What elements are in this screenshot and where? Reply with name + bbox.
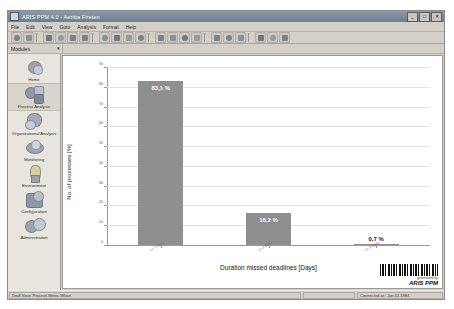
sort-desc-icon-glyph bbox=[226, 35, 232, 41]
menu-item-goto[interactable]: Goto bbox=[59, 24, 70, 30]
sidebar-item-organizational-analysis[interactable]: Organizational Analysis bbox=[8, 111, 60, 137]
menu-item-help[interactable]: Help bbox=[126, 24, 136, 30]
modules-bar: Modules ▾ bbox=[8, 44, 444, 54]
paste-icon[interactable] bbox=[111, 32, 122, 43]
aris-ppm-logo: ARIS PPM bbox=[378, 280, 438, 286]
sort-desc-icon[interactable] bbox=[223, 32, 234, 43]
new-icon-glyph bbox=[14, 35, 20, 41]
gridline bbox=[107, 67, 430, 68]
sort-asc-icon[interactable] bbox=[211, 32, 222, 43]
open-icon-glyph bbox=[26, 35, 32, 41]
toolbar-separator bbox=[36, 33, 41, 42]
monitoring-icon-part-1 bbox=[31, 140, 41, 150]
table-icon[interactable] bbox=[191, 32, 202, 43]
modules-label: Modules bbox=[8, 46, 54, 52]
sidebar-item-configuration[interactable]: Configuration bbox=[8, 189, 60, 215]
menu-item-analysis[interactable]: Analysis bbox=[77, 24, 96, 30]
toolbar-separator bbox=[92, 33, 97, 42]
settings-icon[interactable] bbox=[279, 32, 290, 43]
y-tick bbox=[104, 166, 107, 167]
administration-icon bbox=[24, 216, 44, 234]
sidebar-item-home[interactable]: Home bbox=[8, 57, 60, 83]
chevron-down-icon[interactable]: ▾ bbox=[54, 46, 62, 51]
sidebar-item-administration[interactable]: Administration bbox=[8, 215, 60, 241]
redo-icon[interactable] bbox=[135, 32, 146, 43]
toolbar-separator bbox=[248, 33, 253, 42]
y-tick-label: 40 bbox=[99, 161, 103, 165]
environment-icon bbox=[24, 164, 44, 182]
maximize-button[interactable]: □ bbox=[419, 12, 430, 22]
filter-icon[interactable] bbox=[167, 32, 178, 43]
modules-bar-filler bbox=[62, 44, 444, 53]
menu-item-format[interactable]: Format bbox=[103, 24, 119, 30]
settings-icon-glyph bbox=[282, 35, 288, 41]
grid-icon[interactable] bbox=[255, 32, 266, 43]
process-analysis-icon-part-2 bbox=[34, 94, 44, 104]
sidebar-item-label: Process Analysis bbox=[18, 104, 50, 109]
close-button[interactable]: ✕ bbox=[431, 12, 442, 22]
application-window: ARIS PPM 4.0 - Aeritta Fireten _ □ ✕ Fil… bbox=[7, 10, 445, 300]
brand-block: generated by ARIS PPM bbox=[378, 264, 438, 287]
zoom-icon[interactable] bbox=[235, 32, 246, 43]
environment-icon-part-1 bbox=[31, 175, 40, 183]
chart-icon[interactable] bbox=[179, 32, 190, 43]
minimize-button[interactable]: _ bbox=[407, 12, 418, 22]
menu-item-view[interactable]: View bbox=[42, 24, 53, 30]
body-row: HomeProcess AnalysisOrganizational Analy… bbox=[8, 54, 444, 290]
y-tick bbox=[104, 146, 107, 147]
filter-icon-glyph bbox=[170, 35, 176, 41]
refresh-icon[interactable] bbox=[155, 32, 166, 43]
status-right: Connected at : Jan 01 1984 bbox=[357, 292, 443, 299]
bar[interactable] bbox=[138, 81, 183, 245]
status-left: Draft View: Process Metric Whart bbox=[9, 292, 301, 299]
paste-icon-glyph bbox=[114, 35, 120, 41]
undo-icon[interactable] bbox=[123, 32, 134, 43]
redo-icon-glyph bbox=[138, 35, 144, 41]
sidebar-item-process-analysis[interactable]: Process Analysis bbox=[8, 83, 60, 111]
status-middle bbox=[303, 292, 355, 299]
export-icon[interactable] bbox=[267, 32, 278, 43]
save-icon[interactable] bbox=[43, 32, 54, 43]
bar-value-label: 83,1 % bbox=[151, 85, 170, 91]
new-icon[interactable] bbox=[11, 32, 22, 43]
zoom-icon-glyph bbox=[238, 35, 244, 41]
sidebar-item-label: Home bbox=[28, 77, 39, 82]
toolbar-separator bbox=[148, 33, 153, 42]
bar-value-label: 16,2 % bbox=[259, 217, 278, 223]
y-tick-label: 90 bbox=[99, 62, 103, 66]
y-tick-label: 50 bbox=[99, 141, 103, 145]
configuration-icon-part-1 bbox=[33, 191, 44, 202]
grid-icon-glyph bbox=[258, 35, 264, 41]
y-tick bbox=[104, 225, 107, 226]
open-icon[interactable] bbox=[23, 32, 34, 43]
x-tick-label: <= 3 days bbox=[364, 241, 380, 253]
y-tick bbox=[104, 245, 107, 246]
barcode-icon bbox=[380, 264, 438, 276]
app-icon bbox=[10, 12, 19, 21]
y-axis-line bbox=[107, 68, 108, 246]
y-tick bbox=[104, 67, 107, 68]
home-icon-part-1 bbox=[33, 65, 43, 75]
y-tick-label: 70 bbox=[99, 102, 103, 106]
status-bar: Draft View: Process Metric Whart Connect… bbox=[8, 290, 444, 299]
window-controls: _ □ ✕ bbox=[407, 12, 442, 22]
sidebar-item-environment[interactable]: Environment bbox=[8, 163, 60, 189]
copy-icon[interactable] bbox=[99, 32, 110, 43]
preview-icon[interactable] bbox=[67, 32, 78, 43]
y-tick-label: 30 bbox=[99, 181, 103, 185]
cut-icon[interactable] bbox=[79, 32, 90, 43]
chart-icon-glyph bbox=[182, 35, 188, 41]
y-tick bbox=[104, 205, 107, 206]
organizational-analysis-icon bbox=[24, 112, 44, 130]
sort-asc-icon-glyph bbox=[214, 35, 220, 41]
print-icon[interactable] bbox=[55, 32, 66, 43]
cut-icon-glyph bbox=[82, 35, 88, 41]
menu-item-file[interactable]: File bbox=[11, 24, 19, 30]
y-tick bbox=[104, 186, 107, 187]
y-tick-label: 10 bbox=[99, 220, 103, 224]
sidebar-item-monitoring[interactable]: Monitoring bbox=[8, 137, 60, 163]
menu-bar: File Edit View Goto Analysis Format Help bbox=[8, 22, 444, 32]
process-analysis-icon bbox=[24, 85, 44, 103]
menu-item-edit[interactable]: Edit bbox=[26, 24, 35, 30]
chart-plot-area: Duration missed deadlines [Days] 0102030… bbox=[107, 68, 430, 246]
